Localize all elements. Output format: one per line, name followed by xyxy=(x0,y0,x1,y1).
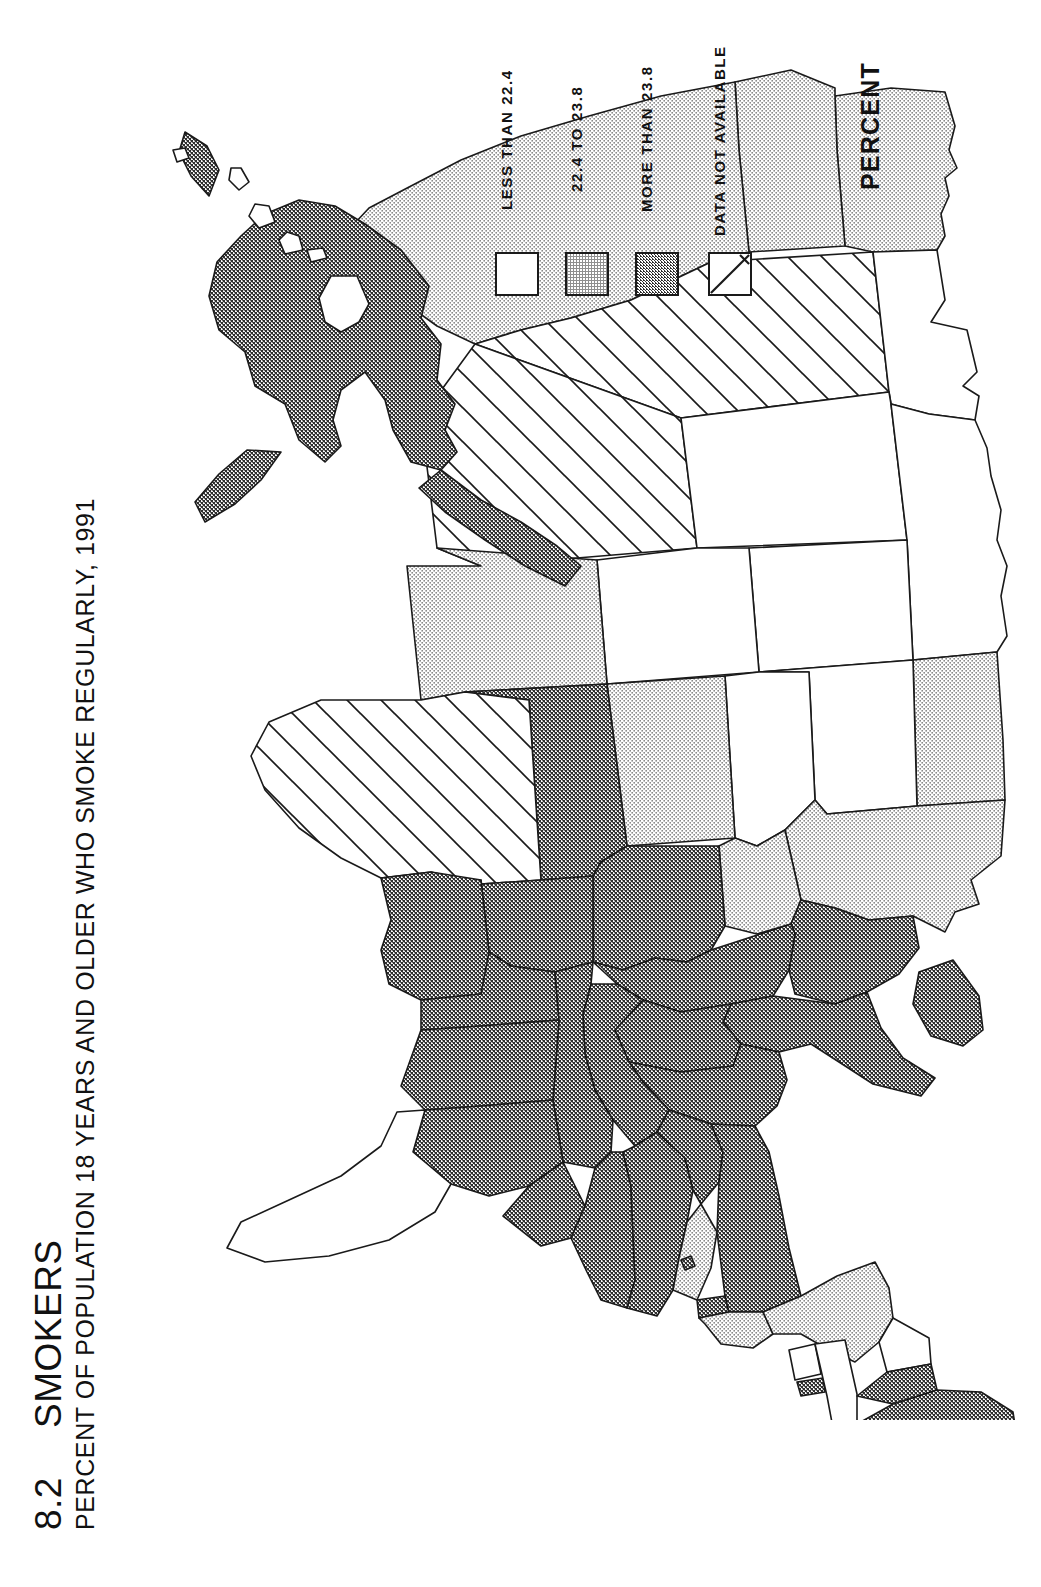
state-AL xyxy=(401,1020,559,1110)
map-legend: PERCENT LESS THAN 22.4 22.4 TO 23.8 MORE… xyxy=(420,0,780,320)
state-OK xyxy=(465,684,627,880)
state-WI xyxy=(789,900,919,1004)
state-FL xyxy=(227,1110,451,1262)
state-TN xyxy=(553,962,613,1168)
state-ID xyxy=(873,250,979,420)
state-MT xyxy=(891,404,1007,660)
legend-swatch-white xyxy=(495,252,539,296)
state-CO xyxy=(597,548,759,684)
state-CT xyxy=(789,1344,821,1380)
state-GA xyxy=(413,1100,563,1196)
state-TX xyxy=(251,692,541,884)
legend-swatch-hatch xyxy=(708,252,752,296)
state-KS xyxy=(607,676,735,846)
page-subtitle: PERCENT OF POPULATION 18 YEARS AND OLDER… xyxy=(73,498,98,1530)
state-AR xyxy=(481,876,593,972)
state-NJ xyxy=(699,1312,773,1348)
state-PA xyxy=(711,1124,801,1312)
state-NY xyxy=(763,1262,893,1362)
state-NC xyxy=(571,1152,635,1308)
hatch-pattern-icon xyxy=(710,254,750,294)
state-MS xyxy=(421,952,559,1030)
state-AZ xyxy=(421,344,697,566)
legend-swatch-dark xyxy=(635,252,679,296)
state-NE xyxy=(725,672,815,846)
state-WA xyxy=(835,88,957,252)
state-MA xyxy=(815,1340,857,1420)
state-VT xyxy=(879,1318,931,1372)
legend-label-1: 22.4 TO 23.8 xyxy=(568,86,585,192)
state-IL xyxy=(593,924,795,1012)
state-ND xyxy=(913,652,1005,806)
state-UT xyxy=(681,392,907,548)
state-KY xyxy=(583,984,669,1146)
legend-title: PERCENT xyxy=(856,62,885,190)
state-IA xyxy=(719,830,801,934)
legend-swatch-light xyxy=(565,252,609,296)
page-title: SMOKERS xyxy=(30,1239,67,1428)
legend-label-0: LESS THAN 22.4 xyxy=(498,69,515,210)
state-OH xyxy=(629,1044,787,1126)
figure-number: 8.2 xyxy=(30,1477,67,1530)
state-VA xyxy=(623,1132,693,1316)
state-LA xyxy=(381,872,511,1000)
state-RI xyxy=(797,1378,825,1396)
title-block: 8.2 SMOKERS PERCENT OF POPULATION 18 YEA… xyxy=(0,0,110,1587)
state-NM xyxy=(407,548,607,700)
state-MI xyxy=(723,960,983,1096)
state-DE xyxy=(697,1296,729,1318)
state-HI xyxy=(173,148,369,332)
state-MN xyxy=(785,800,1005,932)
state-WV xyxy=(657,1110,723,1204)
state-WY xyxy=(749,540,913,672)
state-MO xyxy=(593,846,725,970)
state-MD xyxy=(673,1204,717,1300)
state-SD xyxy=(759,660,917,814)
state-DC xyxy=(681,1256,695,1270)
state-ME xyxy=(857,1390,1017,1420)
state-IN xyxy=(615,1000,741,1072)
state-NH xyxy=(857,1364,937,1404)
state-SC xyxy=(503,1162,585,1246)
legend-label-3: DATA NOT AVAILABLE xyxy=(711,45,728,236)
legend-label-2: MORE THAN 23.8 xyxy=(638,65,655,212)
